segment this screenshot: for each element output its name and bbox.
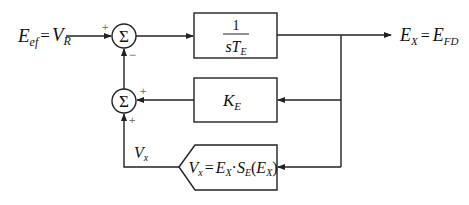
bottom-summer-plus-sign-bottom: + (129, 114, 135, 126)
top-summing-junction: Σ (112, 24, 136, 48)
exciter-block-diagram: Eef=VR + Σ − 1 sTE EX=EFD KE + Σ + (0, 0, 469, 205)
sigma-icon: Σ (119, 27, 129, 46)
input-label: Eef=VR (17, 24, 71, 49)
integrator-block: 1 sTE (194, 13, 277, 58)
top-summer-plus-sign: + (102, 21, 108, 33)
bottom-summer-plus-sign-right: + (140, 85, 146, 97)
gain-block-ke: KE (194, 78, 277, 122)
bottom-summing-junction: Σ (112, 89, 136, 113)
vx-label: Vx (134, 144, 149, 163)
saturation-block: Vx=EX·SE(EX) (179, 145, 278, 190)
top-summer-minus-sign: − (129, 48, 136, 62)
svg-text:1: 1 (233, 18, 240, 33)
output-label: EX=EFD (399, 25, 458, 47)
sigma-icon: Σ (119, 92, 129, 111)
